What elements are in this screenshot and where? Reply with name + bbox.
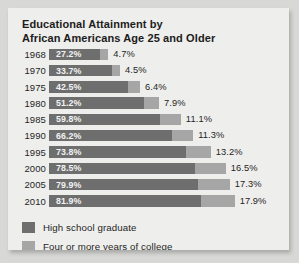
- bar-value-label-college: 17.3%: [235, 179, 262, 189]
- bar-value-label-high-school: 27.2%: [56, 49, 81, 59]
- bar-value-label-high-school: 42.5%: [56, 82, 81, 92]
- stacked-bar: 42.5%: [49, 81, 140, 93]
- chart-title: Educational Attainment by African Americ…: [22, 18, 215, 45]
- bar-segment-college: [186, 146, 211, 158]
- bar-row: 197033.7%4.5%: [8, 63, 289, 79]
- bar-year-label: 1985: [8, 114, 46, 125]
- bar-value-label-high-school: 73.8%: [56, 147, 81, 157]
- bar-segment-high-school: 78.5%: [49, 163, 195, 175]
- bar-value-label-college: 17.9%: [240, 196, 267, 206]
- bar-year-label: 2005: [8, 179, 46, 190]
- stacked-bar: 66.2%: [49, 130, 193, 142]
- bar-value-label-college: 13.2%: [216, 147, 243, 157]
- bar-segment-college: [198, 179, 230, 191]
- chart-panel: Educational Attainment by African Americ…: [8, 8, 289, 250]
- legend-swatch-icon: [22, 222, 35, 233]
- legend-item: High school graduate: [22, 219, 172, 235]
- bar-row: 200579.9%17.3%: [8, 177, 289, 193]
- stacked-bar: 81.9%: [49, 195, 235, 207]
- bar-value-label-college: 6.4%: [145, 82, 167, 92]
- bar-segment-high-school: 81.9%: [49, 195, 201, 207]
- bar-segment-high-school: 66.2%: [49, 130, 172, 142]
- bar-row: 196827.2%4.7%: [8, 47, 289, 63]
- chart-legend: High school graduateFour or more years o…: [22, 219, 172, 250]
- bar-row: 201081.9%17.9%: [8, 194, 289, 210]
- bar-segment-high-school: 59.8%: [49, 114, 160, 126]
- bar-value-label-college: 16.5%: [231, 163, 258, 173]
- bar-segment-college: [144, 97, 159, 109]
- bar-value-label-college: 7.9%: [164, 98, 186, 108]
- stacked-bar: 27.2%: [49, 49, 108, 61]
- bar-chart-plot-area: 196827.2%4.7%197033.7%4.5%197542.5%6.4%1…: [8, 47, 289, 210]
- bar-year-label: 1975: [8, 82, 46, 93]
- bar-value-label-high-school: 66.2%: [56, 131, 81, 141]
- stacked-bar: 79.9%: [49, 179, 230, 191]
- bar-segment-college: [195, 163, 226, 175]
- bar-segment-college: [201, 195, 234, 207]
- stacked-bar: 73.8%: [49, 146, 211, 158]
- bar-segment-college: [172, 130, 193, 142]
- bar-segment-high-school: 51.2%: [49, 97, 144, 109]
- bar-value-label-high-school: 33.7%: [56, 66, 81, 76]
- bar-segment-high-school: 27.2%: [49, 49, 100, 61]
- bar-year-label: 2000: [8, 163, 46, 174]
- legend-item-label: Four or more years of college: [43, 241, 172, 251]
- bar-segment-college: [100, 49, 109, 61]
- bar-value-label-high-school: 51.2%: [56, 98, 81, 108]
- bar-row: 198559.8%11.1%: [8, 112, 289, 128]
- bar-year-label: 1968: [8, 49, 46, 60]
- stacked-bar: 78.5%: [49, 163, 226, 175]
- bar-segment-high-school: 33.7%: [49, 65, 112, 77]
- bar-value-label-high-school: 59.8%: [56, 114, 81, 124]
- bar-segment-high-school: 79.9%: [49, 179, 198, 191]
- bar-value-label-college: 4.7%: [113, 49, 135, 59]
- bar-segment-college: [112, 65, 120, 77]
- bar-year-label: 1980: [8, 98, 46, 109]
- bar-row: 200078.5%16.5%: [8, 161, 289, 177]
- bar-row: 198051.2%7.9%: [8, 96, 289, 112]
- stacked-bar: 59.8%: [49, 114, 181, 126]
- bar-segment-college: [160, 114, 181, 126]
- stacked-bar: 33.7%: [49, 65, 120, 77]
- bar-value-label-high-school: 78.5%: [56, 163, 81, 173]
- bar-value-label-college: 4.5%: [125, 65, 147, 75]
- legend-item-label: High school graduate: [43, 222, 137, 233]
- bar-row: 199066.2%11.3%: [8, 128, 289, 144]
- bar-row: 199573.8%13.2%: [8, 145, 289, 161]
- bar-segment-high-school: 42.5%: [49, 81, 128, 93]
- bar-year-label: 2010: [8, 196, 46, 207]
- bar-value-label-college: 11.3%: [198, 130, 224, 140]
- bar-value-label-high-school: 81.9%: [56, 196, 81, 206]
- bar-year-label: 1970: [8, 65, 46, 76]
- bar-segment-high-school: 73.8%: [49, 146, 186, 158]
- legend-swatch-icon: [22, 241, 35, 251]
- bar-segment-college: [128, 81, 140, 93]
- bar-year-label: 1995: [8, 147, 46, 158]
- bar-row: 197542.5%6.4%: [8, 80, 289, 96]
- bar-year-label: 1990: [8, 130, 46, 141]
- legend-item: Four or more years of college: [22, 238, 172, 250]
- bar-value-label-college: 11.1%: [186, 114, 212, 124]
- stacked-bar: 51.2%: [49, 97, 159, 109]
- bar-value-label-high-school: 79.9%: [56, 180, 81, 190]
